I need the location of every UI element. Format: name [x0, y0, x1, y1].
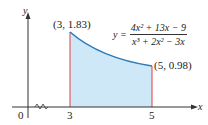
tick-5-label: 5: [149, 110, 155, 121]
equation: y = 4x² + 13x − 9 x³ + 2x² − 3x: [113, 22, 187, 47]
start-point-label: (3, 1.83): [53, 19, 91, 30]
origin-label: 0: [18, 110, 24, 121]
tick-3-label: 3: [67, 110, 73, 121]
end-point-label: (5, 0.98): [154, 60, 192, 71]
x-arrow-icon: [191, 105, 198, 110]
y-axis-label: y: [23, 6, 27, 16]
equation-denominator: x³ + 2x² − 3x: [132, 35, 185, 47]
equation-numerator: 4x² + 13x − 9: [130, 22, 187, 35]
x-axis-label: x: [198, 102, 202, 112]
equation-lhs: y =: [113, 29, 127, 40]
diagram: y x 0 3 5 (3, 1.83) (5, 0.98) y = 4x² + …: [0, 0, 208, 125]
